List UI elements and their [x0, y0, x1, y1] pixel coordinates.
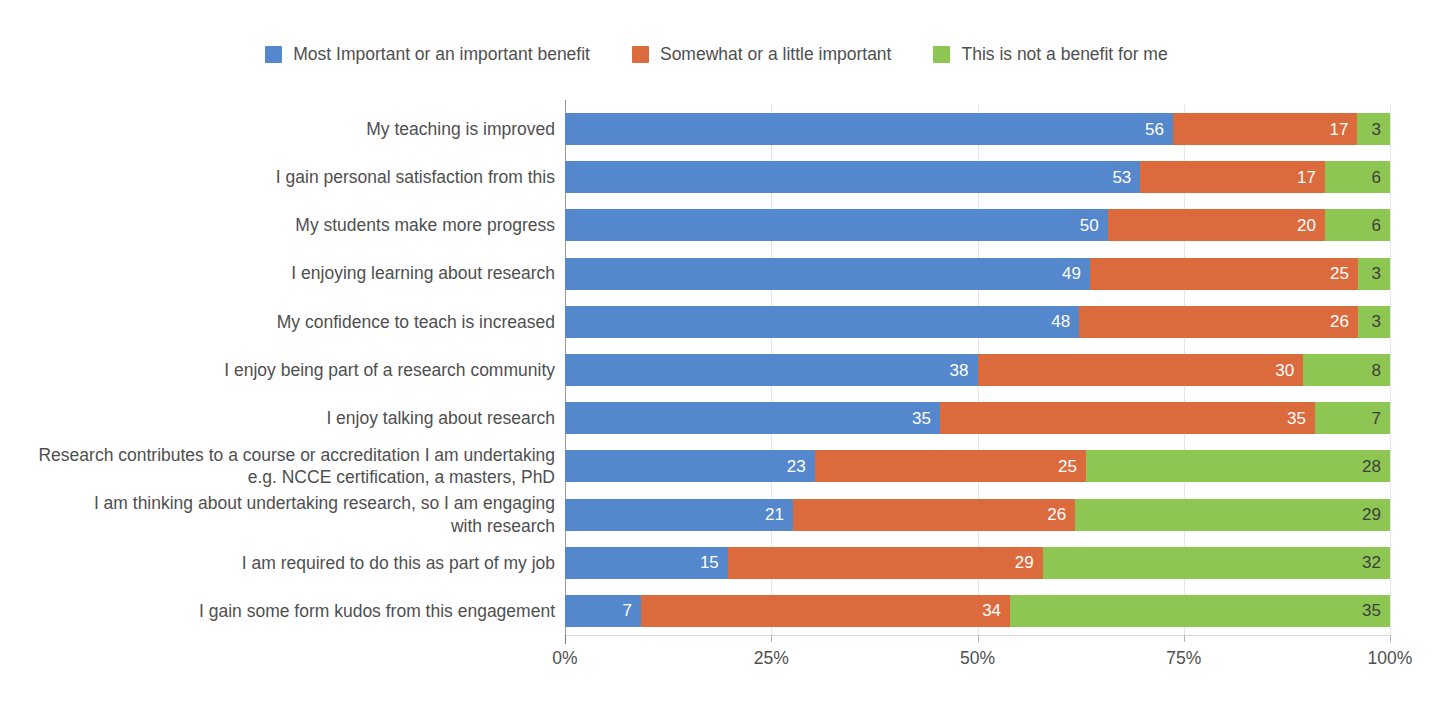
y-axis-category-label-line: My teaching is improved: [0, 118, 555, 140]
bar-value-label: 20: [1297, 217, 1325, 234]
bar-value-label: 17: [1330, 121, 1358, 138]
y-axis-category-label-line: with research: [0, 515, 555, 537]
x-axis-tick-label: 75%: [1166, 648, 1201, 669]
x-axis-tick-label: 0%: [552, 648, 577, 669]
bar-segment-somewhat[interactable]: 29: [728, 547, 1043, 579]
x-tick-mark-25: [771, 635, 772, 642]
bar-row[interactable]: 56173: [565, 113, 1390, 145]
bar-segment-somewhat[interactable]: 17: [1173, 113, 1358, 145]
bar-value-label: 56: [1145, 121, 1173, 138]
y-axis-category-label: My confidence to teach is increased: [0, 311, 555, 333]
bar-value-label: 3: [1372, 121, 1390, 138]
bar-row[interactable]: 48263: [565, 306, 1390, 338]
bar-value-label: 26: [1330, 313, 1358, 330]
bar-value-label: 38: [950, 362, 978, 379]
y-axis-category-label-line: My confidence to teach is increased: [0, 311, 555, 333]
bar-segment-not_a_benefit[interactable]: 7: [1315, 402, 1390, 434]
bar-segment-not_a_benefit[interactable]: 3: [1358, 258, 1390, 290]
x-axis-tick-label: 25%: [754, 648, 789, 669]
bar-segment-most_important[interactable]: 38: [565, 354, 978, 386]
bar-value-label: 6: [1372, 217, 1390, 234]
bar-value-label: 25: [1330, 265, 1358, 282]
bar-segment-most_important[interactable]: 15: [565, 547, 728, 579]
bar-segment-not_a_benefit[interactable]: 6: [1325, 209, 1390, 241]
bar-segment-not_a_benefit[interactable]: 3: [1358, 306, 1390, 338]
bar-segment-most_important[interactable]: 23: [565, 450, 815, 482]
bar-segment-most_important[interactable]: 21: [565, 499, 793, 531]
y-axis-category-label: I gain personal satisfaction from this: [0, 166, 555, 188]
y-axis-category-label-line: I enjoy being part of a research communi…: [0, 359, 555, 381]
bar-row[interactable]: 50206: [565, 209, 1390, 241]
x-axis-tick-label: 100%: [1368, 648, 1413, 669]
gridline-100: [1390, 105, 1391, 635]
bar-segment-most_important[interactable]: 7: [565, 595, 641, 627]
bar-value-label: 3: [1372, 265, 1390, 282]
bar-value-label: 35: [1362, 602, 1390, 619]
bar-segment-somewhat[interactable]: 26: [1079, 306, 1358, 338]
bar-value-label: 50: [1080, 217, 1108, 234]
bar-row[interactable]: 212629: [565, 499, 1390, 531]
bar-row[interactable]: 49253: [565, 258, 1390, 290]
bar-segment-not_a_benefit[interactable]: 3: [1357, 113, 1390, 145]
bar-segment-somewhat[interactable]: 25: [1090, 258, 1358, 290]
y-axis-category-label-line: Research contributes to a course or accr…: [0, 444, 555, 466]
bar-segment-somewhat[interactable]: 34: [641, 595, 1010, 627]
bar-value-label: 32: [1362, 554, 1390, 571]
bar-value-label: 35: [912, 410, 940, 427]
bar-segment-not_a_benefit[interactable]: 28: [1086, 450, 1390, 482]
bar-segment-not_a_benefit[interactable]: 6: [1325, 161, 1390, 193]
y-axis-category-label: I enjoying learning about research: [0, 262, 555, 284]
bar-segment-not_a_benefit[interactable]: 35: [1010, 595, 1390, 627]
x-tick-mark-50: [978, 635, 979, 642]
bar-segment-most_important[interactable]: 56: [565, 113, 1173, 145]
plot-area: 5617353176502064925348263383083535723252…: [565, 105, 1390, 635]
bar-value-label: 6: [1372, 169, 1390, 186]
bar-segment-somewhat[interactable]: 17: [1140, 161, 1325, 193]
bar-segment-most_important[interactable]: 50: [565, 209, 1108, 241]
y-axis-category-label: I am required to do this as part of my j…: [0, 552, 555, 574]
bar-row[interactable]: 152932: [565, 547, 1390, 579]
y-axis-category-label-line: e.g. NCCE certification, a masters, PhD: [0, 466, 555, 488]
y-axis-category-label-line: I am thinking about undertaking research…: [0, 492, 555, 514]
y-axis-category-label: I gain some form kudos from this engagem…: [0, 600, 555, 622]
bar-segment-most_important[interactable]: 35: [565, 402, 940, 434]
bar-row[interactable]: 35357: [565, 402, 1390, 434]
bar-value-label: 3: [1372, 313, 1390, 330]
bar-segment-somewhat[interactable]: 35: [940, 402, 1315, 434]
y-axis-category-label-line: I gain personal satisfaction from this: [0, 166, 555, 188]
x-axis-tick-label: 50%: [960, 648, 995, 669]
y-axis-category-label-line: I gain some form kudos from this engagem…: [0, 600, 555, 622]
bar-value-label: 21: [765, 506, 793, 523]
y-axis-category-label-line: I am required to do this as part of my j…: [0, 552, 555, 574]
bar-value-label: 26: [1047, 506, 1075, 523]
bar-segment-not_a_benefit[interactable]: 29: [1075, 499, 1390, 531]
bar-row[interactable]: 232528: [565, 450, 1390, 482]
bar-segment-somewhat[interactable]: 20: [1108, 209, 1325, 241]
bar-segment-not_a_benefit[interactable]: 8: [1303, 354, 1390, 386]
bar-value-label: 28: [1362, 458, 1390, 475]
bar-value-label: 15: [700, 554, 728, 571]
x-tick-mark-100: [1390, 635, 1391, 642]
bar-value-label: 48: [1051, 313, 1079, 330]
bar-value-label: 17: [1297, 169, 1325, 186]
bar-row[interactable]: 38308: [565, 354, 1390, 386]
bar-segment-most_important[interactable]: 49: [565, 258, 1090, 290]
bar-row[interactable]: 73435: [565, 595, 1390, 627]
bar-segment-most_important[interactable]: 53: [565, 161, 1140, 193]
y-axis-category-label: My students make more progress: [0, 214, 555, 236]
y-axis-category-label-line: I enjoy talking about research: [0, 407, 555, 429]
bar-segment-not_a_benefit[interactable]: 32: [1043, 547, 1390, 579]
y-axis-category-label: I am thinking about undertaking research…: [0, 492, 555, 537]
x-tick-mark-75: [1184, 635, 1185, 642]
bar-value-label: 8: [1372, 362, 1390, 379]
bar-value-label: 35: [1287, 410, 1315, 427]
stacked-bar-chart: 5617353176502064925348263383083535723252…: [0, 0, 1433, 707]
bar-value-label: 49: [1062, 265, 1090, 282]
bar-segment-somewhat[interactable]: 26: [793, 499, 1075, 531]
bar-segment-most_important[interactable]: 48: [565, 306, 1079, 338]
bar-value-label: 23: [787, 458, 815, 475]
bar-segment-somewhat[interactable]: 25: [815, 450, 1086, 482]
bar-row[interactable]: 53176: [565, 161, 1390, 193]
bar-segment-somewhat[interactable]: 30: [978, 354, 1304, 386]
y-axis-category-label: My teaching is improved: [0, 118, 555, 140]
